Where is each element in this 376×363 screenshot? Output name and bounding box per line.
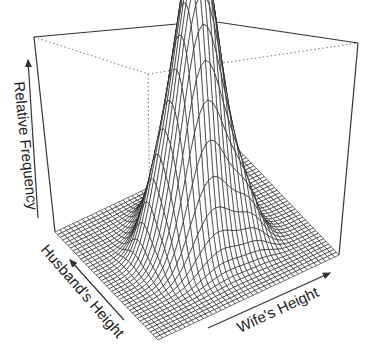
wireframe-surface: [55, 0, 339, 340]
surface-plot: Relative Frequency Husband's Height Wife…: [0, 0, 376, 363]
z-axis-label: Relative Frequency: [11, 81, 41, 212]
